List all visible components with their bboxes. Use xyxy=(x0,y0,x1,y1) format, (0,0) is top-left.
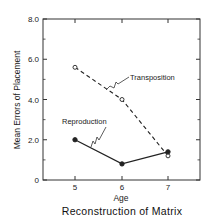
y-tick-label: 0 xyxy=(35,176,40,185)
series-line-reproduction xyxy=(75,140,168,164)
open-circle-marker-icon xyxy=(120,98,124,102)
filled-circle-marker-icon xyxy=(166,150,170,154)
x-tick-label: 7 xyxy=(166,183,171,192)
transposition-leader-icon xyxy=(106,77,129,90)
chart-title: Reconstruction of Matrix xyxy=(62,205,183,217)
x-tick-label: 5 xyxy=(73,183,78,192)
reproduction-label: Reproduction xyxy=(62,117,107,126)
chart: 02.04.06.08.0 567 Transposition Reproduc… xyxy=(0,0,209,222)
filled-circle-marker-icon xyxy=(120,162,124,166)
filled-circle-marker-icon xyxy=(73,138,77,142)
x-tick-label: 6 xyxy=(120,183,125,192)
transposition-label: Transposition xyxy=(130,73,175,82)
y-tick-label: 2.0 xyxy=(28,136,40,145)
y-tick-label: 6.0 xyxy=(28,55,40,64)
open-circle-marker-icon xyxy=(73,65,77,69)
reproduction-leader-icon xyxy=(91,127,106,147)
y-tick-label: 8.0 xyxy=(28,15,40,24)
y-tick-label: 4.0 xyxy=(28,96,40,105)
y-axis-label: Mean Errors of Placement xyxy=(12,50,22,149)
x-axis-label: Age xyxy=(113,193,128,203)
